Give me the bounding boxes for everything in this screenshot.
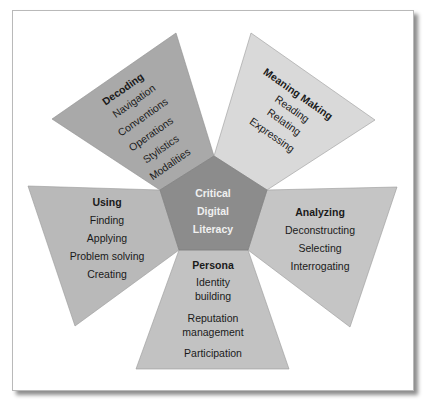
using-item: Creating bbox=[87, 268, 127, 280]
persona-item: Participation bbox=[184, 347, 242, 359]
center-label-line-2: Digital bbox=[197, 205, 229, 217]
center-label-line-1: Critical bbox=[195, 187, 231, 199]
center-label-line-3: Literacy bbox=[193, 223, 233, 235]
using-title: Using bbox=[92, 196, 121, 208]
critical-digital-literacy-diagram: Critical Digital Literacy Decoding Navig… bbox=[0, 0, 427, 403]
persona-item: management bbox=[182, 326, 243, 338]
analyzing-item: Selecting bbox=[298, 242, 341, 254]
analyzing-item: Deconstructing bbox=[285, 224, 355, 236]
persona-title: Persona bbox=[192, 259, 234, 271]
analyzing-item: Interrogating bbox=[291, 260, 350, 272]
using-item: Problem solving bbox=[70, 250, 145, 262]
decoding-segment bbox=[52, 33, 214, 190]
using-item: Applying bbox=[87, 232, 127, 244]
using-item: Finding bbox=[90, 214, 125, 226]
persona-item: Reputation bbox=[188, 312, 239, 324]
persona-item: building bbox=[195, 290, 231, 302]
analyzing-title: Analyzing bbox=[295, 206, 345, 218]
persona-item: Identity bbox=[196, 276, 231, 288]
